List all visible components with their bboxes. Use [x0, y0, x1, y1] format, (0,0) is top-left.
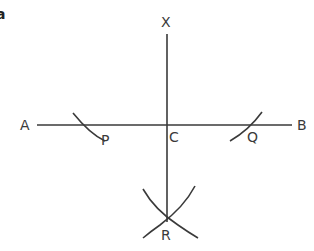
- label-b: B: [297, 117, 307, 133]
- label-r: R: [161, 227, 171, 243]
- label-q: Q: [247, 129, 258, 145]
- perpendicular-construction-diagram: a X A B C P Q R: [0, 0, 314, 251]
- label-a: A: [20, 117, 30, 133]
- corner-label-fragment: a: [0, 6, 5, 22]
- label-x: X: [161, 14, 171, 30]
- label-c: C: [169, 129, 179, 145]
- label-p: P: [101, 132, 109, 148]
